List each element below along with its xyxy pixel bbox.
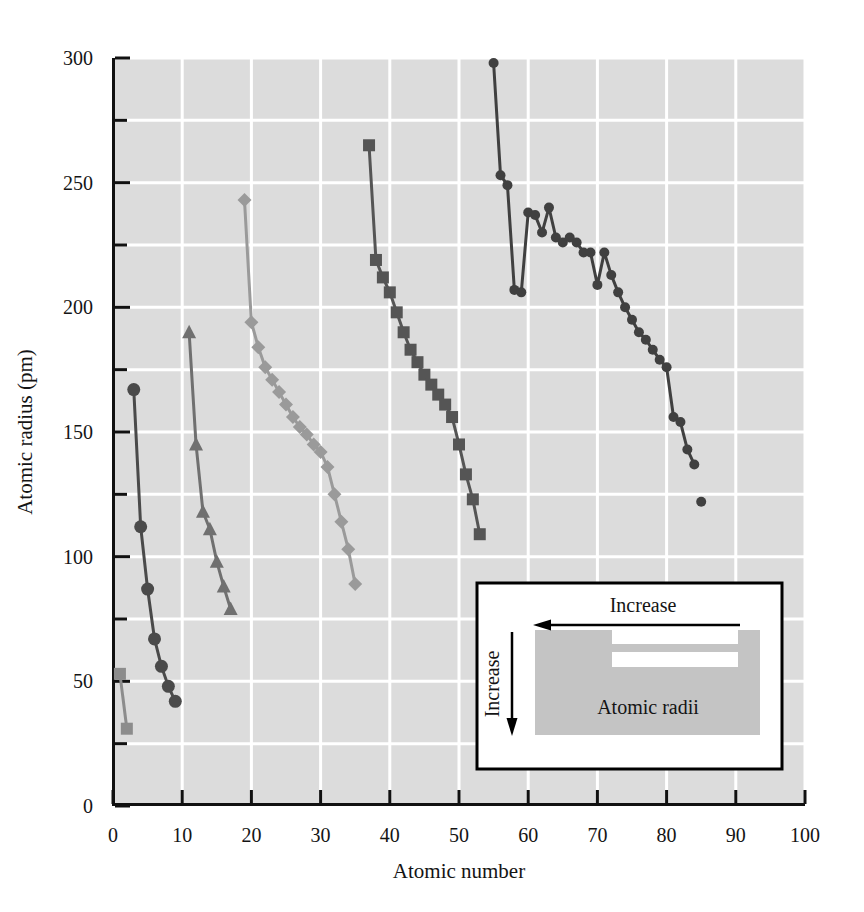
inset-vertical-label: Increase [481, 651, 503, 718]
data-point-circle [648, 345, 658, 355]
inset-horizontal-label: Increase [610, 594, 677, 616]
data-point-circle [655, 355, 665, 365]
y-axis-title: Atomic radius (pm) [13, 349, 37, 515]
x-tick-label: 40 [380, 824, 400, 846]
data-point-circle [592, 280, 602, 290]
y-tick-label: 200 [63, 296, 93, 318]
x-tick-label: 60 [518, 824, 538, 846]
data-point-circle [169, 695, 182, 708]
data-point-square [453, 438, 465, 450]
data-point-circle [682, 444, 692, 454]
data-point-circle [530, 210, 540, 220]
x-tick-label: 20 [241, 824, 261, 846]
data-point-square [384, 286, 396, 298]
data-point-square [467, 493, 479, 505]
chart-canvas: 0102030405060708090100 05010015020025030… [0, 0, 864, 912]
data-point-circle [155, 660, 168, 673]
x-tick-label: 30 [311, 824, 331, 846]
data-point-circle [141, 583, 154, 596]
data-point-circle [634, 327, 644, 337]
data-point-circle [599, 247, 609, 257]
data-point-circle [696, 497, 706, 507]
x-tick-label: 10 [172, 824, 192, 846]
data-point-circle [134, 520, 147, 533]
data-point-circle [496, 170, 506, 180]
y-tick-label: 150 [63, 421, 93, 443]
data-point-square [446, 411, 458, 423]
y-tick-label: 50 [73, 670, 93, 692]
y-tick-label: 0 [83, 795, 93, 817]
x-axis-title: Atomic number [393, 859, 525, 883]
x-tick-label: 50 [449, 824, 469, 846]
data-point-circle [148, 632, 161, 645]
x-tick-label: 70 [587, 824, 607, 846]
data-point-square [121, 723, 133, 735]
data-point-circle [572, 238, 582, 248]
inset-legend: Increase Increase Atomic radii [477, 583, 782, 769]
data-point-square [377, 271, 389, 283]
data-point-square [114, 668, 126, 680]
data-point-circle [613, 287, 623, 297]
data-point-circle [516, 287, 526, 297]
x-tick-label: 100 [790, 824, 820, 846]
data-point-circle [627, 315, 637, 325]
data-point-circle [606, 270, 616, 280]
atomic-radius-chart-figure: 0102030405060708090100 05010015020025030… [0, 0, 864, 912]
data-point-circle [620, 302, 630, 312]
data-point-square [398, 326, 410, 338]
x-tick-label: 90 [726, 824, 746, 846]
x-tick-labels: 0102030405060708090100 [108, 824, 820, 846]
data-point-square [405, 344, 417, 356]
data-point-circle [641, 335, 651, 345]
data-point-square [474, 528, 486, 540]
inset-body-label: Atomic radii [597, 696, 699, 718]
x-tick-label: 80 [657, 824, 677, 846]
y-tick-label: 300 [63, 47, 93, 69]
data-point-circle [689, 459, 699, 469]
y-tick-labels: 050100150200250300 [63, 47, 93, 817]
data-point-circle [502, 180, 512, 190]
data-point-circle [585, 247, 595, 257]
data-point-square [439, 399, 451, 411]
data-point-circle [662, 362, 672, 372]
series-astatine-isolated [696, 497, 706, 507]
data-point-circle [675, 417, 685, 427]
y-tick-label: 100 [63, 546, 93, 568]
y-tick-label: 250 [63, 172, 93, 194]
data-point-circle [162, 680, 175, 693]
data-point-circle [489, 58, 499, 68]
data-point-square [460, 468, 472, 480]
data-point-square [411, 356, 423, 368]
data-point-square [363, 139, 375, 151]
data-point-circle [544, 203, 554, 213]
data-point-circle [537, 228, 547, 238]
x-tick-label: 0 [108, 824, 118, 846]
data-point-square [370, 254, 382, 266]
data-point-circle [127, 383, 140, 396]
data-point-square [391, 306, 403, 318]
